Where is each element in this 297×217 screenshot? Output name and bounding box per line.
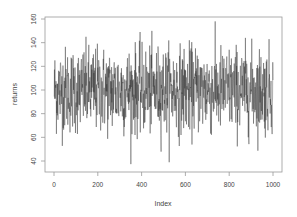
x-tick-label: 200 (92, 181, 103, 188)
x-tick-label: 600 (180, 181, 191, 188)
y-tick-label: 40 (30, 157, 37, 165)
y-tick-label: 160 (30, 13, 37, 24)
y-axis-label: returns (11, 83, 18, 105)
y-tick-label: 140 (30, 37, 37, 48)
returns-line-chart: 406080100120140160 02004006008001000 Ind… (0, 0, 297, 217)
x-tick-label: 0 (52, 181, 56, 188)
returns-series-line (54, 21, 273, 164)
y-tick-label: 60 (30, 133, 37, 141)
x-tick-label: 400 (136, 181, 147, 188)
y-tick-label: 120 (30, 61, 37, 72)
x-tick-label: 800 (224, 181, 235, 188)
x-axis: 02004006008001000 (52, 172, 280, 188)
y-axis: 406080100120140160 (30, 13, 45, 164)
x-axis-label: Index (154, 200, 172, 207)
x-tick-label: 1000 (266, 181, 281, 188)
y-tick-label: 80 (30, 110, 37, 118)
y-tick-label: 100 (30, 84, 37, 95)
